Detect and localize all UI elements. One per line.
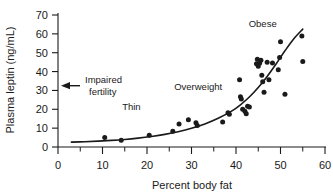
y-tick-label-10: 10 xyxy=(36,122,48,134)
x-tick-label-20: 20 xyxy=(141,159,153,171)
y-tick-label-0: 0 xyxy=(42,141,48,153)
y-tick-label-40: 40 xyxy=(36,66,48,78)
y-tick-label-30: 30 xyxy=(36,84,48,96)
x-axis-title: Percent body fat xyxy=(152,179,232,191)
y-axis-ticks: 010203040506070 xyxy=(36,9,58,153)
x-axis-ticks: 0102030405060 xyxy=(55,147,331,171)
data-point xyxy=(119,138,124,143)
y-tick-label-60: 60 xyxy=(36,28,48,40)
chart-figure: 010203040506070 0102030405060 Percent bo… xyxy=(0,0,333,196)
data-point xyxy=(278,39,283,44)
data-point xyxy=(177,121,182,126)
y-tick-label-50: 50 xyxy=(36,47,48,59)
data-point xyxy=(239,97,244,102)
annotation-impaired-fertility: Impaired fertility xyxy=(61,74,122,97)
data-point xyxy=(195,123,200,128)
leptin-vs-bodyfat-scatter-chart: 010203040506070 0102030405060 Percent bo… xyxy=(0,0,333,196)
data-point xyxy=(102,135,107,140)
data-point xyxy=(300,59,305,64)
y-tick-label-70: 70 xyxy=(36,9,48,21)
data-point xyxy=(262,90,267,95)
impaired-fertility-label-line2: fertility xyxy=(89,86,117,97)
impaired-fertility-arrow-head xyxy=(61,82,70,89)
annotation-thin: Thin xyxy=(122,101,140,112)
data-point xyxy=(276,67,281,72)
data-point xyxy=(277,55,282,60)
data-point xyxy=(270,60,275,65)
data-point xyxy=(147,133,152,138)
annotation-overweight: Overweight xyxy=(174,81,222,92)
data-point xyxy=(266,77,271,82)
data-point xyxy=(265,60,270,65)
impaired-fertility-label-line1: Impaired xyxy=(85,74,122,85)
x-tick-label-40: 40 xyxy=(230,159,242,171)
data-point xyxy=(260,79,265,84)
data-point xyxy=(237,77,242,82)
data-point xyxy=(186,117,191,122)
data-point xyxy=(227,112,232,117)
data-point xyxy=(299,34,304,39)
data-point xyxy=(282,92,287,97)
data-point xyxy=(247,105,252,110)
data-point xyxy=(258,58,263,63)
y-tick-label-20: 20 xyxy=(36,103,48,115)
x-tick-label-60: 60 xyxy=(319,159,331,171)
data-point xyxy=(170,129,175,134)
data-point xyxy=(244,111,249,116)
y-axis-title: Plasma leptin (ng/mL) xyxy=(4,27,16,134)
x-tick-label-30: 30 xyxy=(185,159,197,171)
annotation-obese: Obese xyxy=(249,18,277,29)
data-point xyxy=(259,73,264,78)
x-tick-label-0: 0 xyxy=(55,159,61,171)
data-point xyxy=(220,119,225,124)
x-tick-label-50: 50 xyxy=(274,159,286,171)
x-tick-label-10: 10 xyxy=(96,159,108,171)
